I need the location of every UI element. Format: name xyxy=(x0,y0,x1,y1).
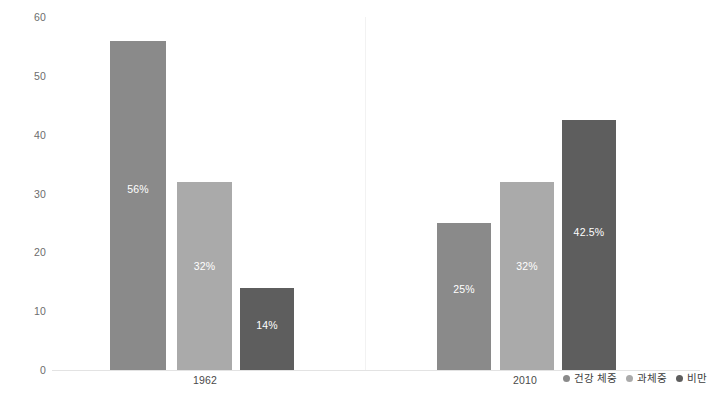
bar-value-1962-overweight: 32% xyxy=(177,260,232,272)
bar-1962-healthy[interactable]: 56% xyxy=(110,41,166,370)
bar-1962-obese[interactable]: 14% xyxy=(240,288,294,370)
legend-dot-healthy-icon xyxy=(563,375,570,382)
y-axis: 60 50 40 30 20 10 0 xyxy=(0,0,46,404)
y-tick-50: 50 xyxy=(12,70,46,82)
x-label-2010: 2010 xyxy=(513,374,537,386)
legend-item-overweight[interactable]: 과체중 xyxy=(626,373,667,384)
bar-value-2010-obese: 42.5% xyxy=(562,226,616,238)
bar-2010-healthy[interactable]: 25% xyxy=(437,223,491,370)
y-tick-20: 20 xyxy=(12,246,46,258)
legend-label-healthy: 건강 체중 xyxy=(574,373,617,384)
bar-value-1962-healthy: 56% xyxy=(110,183,166,195)
x-axis-baseline xyxy=(52,370,700,371)
legend-item-obese[interactable]: 비만 xyxy=(676,373,707,384)
bar-2010-overweight[interactable]: 32% xyxy=(500,182,554,370)
legend-label-overweight: 과체중 xyxy=(637,373,667,384)
bar-2010-obese[interactable]: 42.5% xyxy=(562,120,616,370)
x-label-1962: 1962 xyxy=(193,374,217,386)
legend-item-healthy[interactable]: 건강 체중 xyxy=(563,373,617,384)
bar-value-2010-healthy: 25% xyxy=(437,283,491,295)
legend-dot-overweight-icon xyxy=(626,375,633,382)
bar-1962-overweight[interactable]: 32% xyxy=(177,182,232,370)
y-tick-0: 0 xyxy=(12,364,46,376)
bar-value-2010-overweight: 32% xyxy=(500,260,554,272)
legend: 건강 체중 과체중 비만 xyxy=(563,373,707,384)
bar-value-1962-obese: 14% xyxy=(240,319,294,331)
y-tick-30: 30 xyxy=(12,188,46,200)
legend-dot-obese-icon xyxy=(676,375,683,382)
y-tick-40: 40 xyxy=(12,129,46,141)
y-tick-60: 60 xyxy=(12,11,46,23)
legend-label-obese: 비만 xyxy=(687,373,707,384)
y-tick-10: 10 xyxy=(12,305,46,317)
group-divider xyxy=(365,17,366,370)
